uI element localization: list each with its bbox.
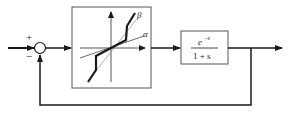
alpha-label: α [143, 29, 148, 39]
tf-denominator: 1 + s [193, 51, 211, 61]
feedback-block-diagram: + − β α e −s 1 + s [0, 0, 291, 116]
tf-numerator: e [198, 37, 202, 47]
minus-sign: − [26, 50, 32, 62]
plus-sign: + [26, 31, 32, 43]
beta-label: β [136, 10, 142, 20]
summing-junction [35, 43, 46, 54]
tf-numerator-exponent: −s [204, 35, 211, 41]
